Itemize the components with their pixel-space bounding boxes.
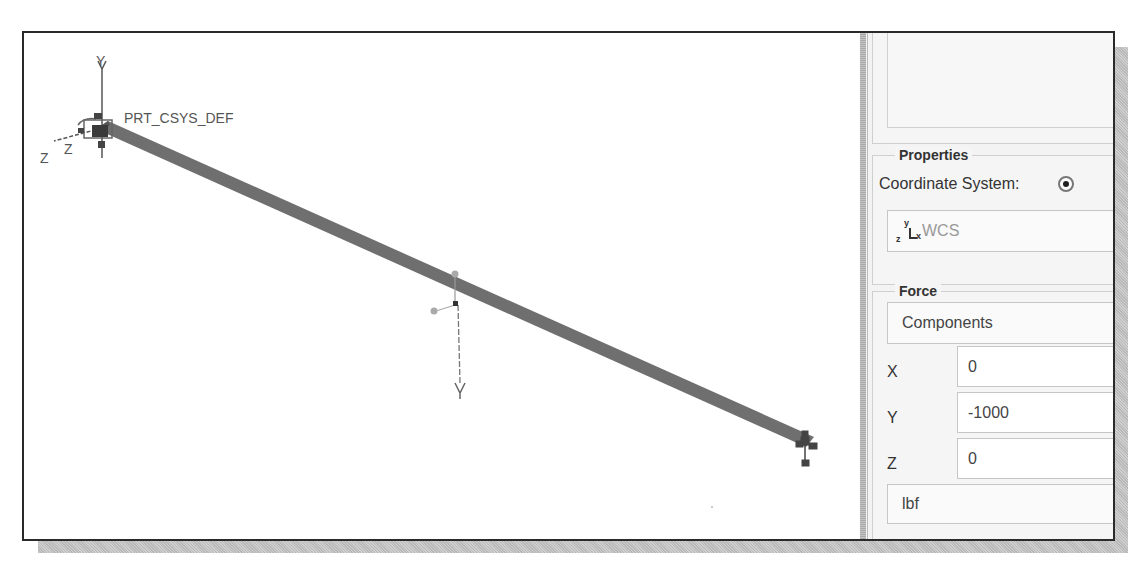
csys-reference-field[interactable]: y x z WCS — [887, 210, 1115, 252]
y-component-label: Y — [887, 409, 898, 427]
force-mode-dropdown[interactable]: Components — [887, 302, 1115, 344]
force-group: Force Components X 0 Y -1000 Z 0 lbf — [872, 291, 1115, 541]
z-component-input[interactable]: 0 — [957, 438, 1115, 479]
references-listbox[interactable] — [887, 32, 1115, 128]
z-component-label: Z — [887, 455, 897, 473]
graphics-viewport[interactable]: Y Z Z PRT_CSYS_DEF — [24, 33, 860, 539]
application-window: Y Z Z PRT_CSYS_DEF — [22, 31, 1115, 541]
csys-value: WCS — [922, 222, 959, 240]
axis-label-z-inner: Z — [64, 141, 73, 157]
csys-name-label: PRT_CSYS_DEF — [124, 110, 233, 126]
x-component-label: X — [887, 363, 898, 381]
load-properties-panel: Properties Coordinate System: y x z WCS … — [860, 33, 1113, 539]
csys-icon: y x z — [896, 220, 918, 242]
coordinate-system-radio[interactable] — [1058, 176, 1074, 192]
axis-label-z-outer: Z — [40, 150, 49, 166]
y-component-input[interactable]: -1000 — [957, 392, 1115, 433]
panel-resize-sash[interactable] — [860, 33, 866, 539]
properties-group: Properties Coordinate System: y x z WCS — [872, 155, 1115, 285]
arrow-down-icon — [455, 383, 465, 399]
sash-divider — [867, 33, 868, 539]
axis-label-y: Y — [96, 53, 106, 69]
csys-glyph[interactable] — [54, 61, 112, 158]
force-units-dropdown[interactable]: lbf — [887, 484, 1115, 524]
model-canvas[interactable]: Y Z Z PRT_CSYS_DEF — [24, 33, 860, 539]
force-title: Force — [895, 283, 941, 299]
x-component-input[interactable]: 0 — [957, 346, 1115, 387]
coordinate-system-label: Coordinate System: — [879, 175, 1020, 193]
properties-title: Properties — [895, 147, 972, 163]
stray-dot — [711, 506, 713, 508]
references-group — [872, 31, 1115, 144]
